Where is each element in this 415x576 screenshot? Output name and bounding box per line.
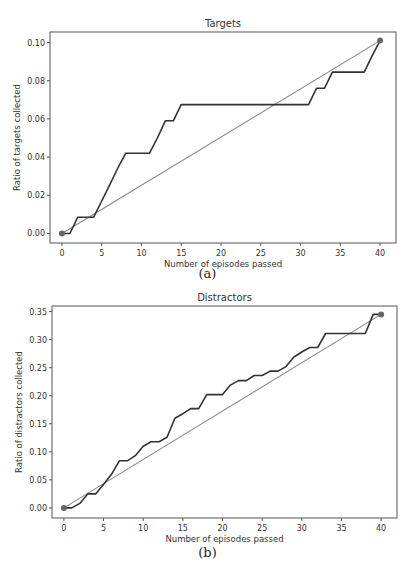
plot-frame: [52, 306, 397, 518]
y-tick-label: 0.02: [27, 191, 45, 200]
x-tick-label: 25: [257, 524, 267, 533]
y-tick-label: 0.06: [27, 115, 45, 124]
y-tick-label: 0.20: [29, 392, 47, 401]
y-tick-label: 0.00: [27, 229, 45, 238]
plot-frame: [50, 32, 396, 243]
x-tick-label: 15: [178, 524, 188, 533]
x-tick-label: 40: [375, 249, 385, 258]
x-tick-label: 5: [101, 524, 106, 533]
chart-title: Distractors: [197, 292, 252, 303]
y-axis-label: Ratio of targets collected: [12, 84, 22, 191]
caption-b: (b): [0, 545, 415, 560]
x-tick-label: 35: [335, 249, 345, 258]
x-tick-label: 0: [59, 249, 64, 258]
figure-a-targets: Targets05101520253035400.000.020.040.060…: [0, 0, 415, 290]
x-tick-label: 35: [336, 524, 346, 533]
endpoint-marker: [377, 38, 383, 44]
y-tick-label: 0.15: [29, 420, 47, 429]
x-tick-label: 40: [376, 524, 386, 533]
y-tick-label: 0.10: [29, 448, 47, 457]
series-reference-line: [64, 314, 381, 508]
x-tick-label: 5: [99, 249, 104, 258]
x-tick-label: 10: [136, 249, 146, 258]
series-reference-line: [62, 41, 380, 234]
y-tick-label: 0.10: [27, 39, 45, 48]
chart-title: Targets: [204, 18, 241, 29]
x-tick-label: 20: [216, 249, 226, 258]
endpoint-marker: [59, 230, 65, 236]
x-tick-label: 20: [217, 524, 227, 533]
x-tick-label: 10: [138, 524, 148, 533]
y-tick-label: 0.00: [29, 504, 47, 513]
distractors-chart: Distractors05101520253035400.000.050.100…: [0, 290, 415, 550]
x-tick-label: 30: [295, 249, 305, 258]
targets-chart: Targets05101520253035400.000.020.040.060…: [0, 0, 415, 270]
endpoint-marker: [61, 505, 67, 511]
y-tick-label: 0.35: [29, 308, 47, 317]
endpoint-marker: [378, 311, 384, 317]
y-tick-label: 0.08: [27, 77, 45, 86]
x-tick-label: 25: [256, 249, 266, 258]
y-tick-label: 0.25: [29, 364, 47, 373]
x-tick-label: 15: [176, 249, 186, 258]
y-axis-label: Ratio of distractors collected: [14, 351, 24, 473]
x-tick-label: 0: [61, 524, 66, 533]
y-tick-label: 0.05: [29, 476, 47, 485]
caption-a: (a): [0, 266, 415, 281]
x-tick-label: 30: [297, 524, 307, 533]
y-tick-label: 0.04: [27, 153, 45, 162]
x-axis-label: Number of episodes passed: [165, 534, 283, 544]
figure-b-distractors: Distractors05101520253035400.000.050.100…: [0, 290, 415, 576]
y-tick-label: 0.30: [29, 336, 47, 345]
